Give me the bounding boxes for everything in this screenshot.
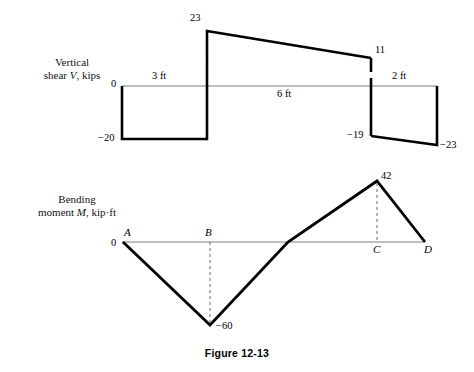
- shear-axis-caption-line2-post: , kips: [76, 69, 100, 81]
- figure-12-13: Vertical shear V, kips Bending moment M,…: [0, 0, 474, 372]
- shear-neg-23-label: −23: [440, 139, 456, 150]
- moment-axis-caption-line1: Bending: [58, 193, 95, 205]
- figure-caption: Figure 12-13: [0, 347, 474, 359]
- moment-point-c-label: C: [373, 243, 380, 255]
- shear-axis-caption: Vertical shear V, kips: [22, 56, 122, 82]
- shear-segment-cd: [371, 86, 437, 145]
- moment-axis-caption-line2-pre: moment: [38, 206, 77, 218]
- shear-segment-bc: [207, 31, 371, 86]
- shear-peak-23-label: 23: [190, 12, 201, 23]
- moment-axis-caption-line2-post: , kip·ft: [86, 206, 116, 218]
- moment-axis-caption-variable: M: [77, 206, 86, 218]
- shear-span-mid-label: 6 ft: [277, 88, 291, 99]
- shear-axis-caption-line2-pre: shear: [44, 69, 70, 81]
- shear-segment-ab: [122, 86, 207, 139]
- shear-value-11-label: 11: [375, 44, 385, 55]
- shear-neg-20-label: −20: [98, 132, 114, 143]
- moment-min-60-label: −60: [216, 320, 232, 331]
- shear-span-left-label: 3 ft: [152, 70, 166, 81]
- shear-neg-19-label: −19: [347, 129, 363, 140]
- moment-axis-caption: Bending moment M, kip·ft: [22, 193, 132, 219]
- moment-max-42-label: 42: [381, 170, 392, 181]
- moment-point-a-label: A: [124, 226, 131, 238]
- moment-point-b-label: B: [205, 226, 212, 238]
- shear-zero-label: 0: [111, 78, 116, 89]
- moment-point-d-label: D: [424, 243, 432, 255]
- moment-zero-label: 0: [111, 237, 116, 248]
- shear-span-right-label: 2 ft: [392, 70, 406, 81]
- shear-axis-caption-line1: Vertical: [55, 56, 89, 68]
